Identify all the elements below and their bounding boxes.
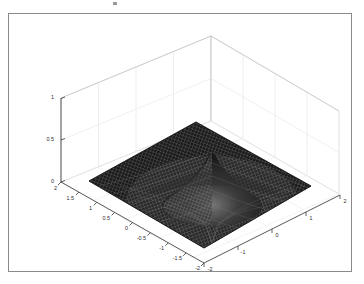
y-tick-label-neg-1-5: -1.5 [173,255,182,261]
x-tick-label-neg-2: -2 [208,266,213,272]
x-tick-label-0: 0 [276,232,279,238]
z-tick-label-0-5: 0.5 [47,136,55,142]
x-tick-label-neg-1: -1 [241,249,246,255]
screenshot-root: 1 0.5 0 2 1.5 1 0.5 0 -0.5 -1 -1.5 [0,0,364,284]
y-tick-label-2: 2 [54,185,57,191]
x-tick-label-1: 1 [310,215,313,221]
x-tick-label-2: 2 [344,198,347,204]
figure-frame: 1 0.5 0 2 1.5 1 0.5 0 -0.5 -1 -1.5 [8,13,352,272]
y-tick-label-1-5: 1.5 [67,195,75,201]
y-tick-label-neg-2: -2 [195,265,200,271]
y-tick-label-0-5: 0.5 [103,215,111,221]
z-tick-label-1: 1 [51,94,54,100]
surface-plot-3d: 1 0.5 0 2 1.5 1 0.5 0 -0.5 -1 -1.5 [9,14,353,273]
z-tick-label-0: 0 [51,178,54,184]
y-tick-label-1: 1 [89,205,92,211]
scan-artifact-top [113,2,117,5]
y-tick-label-neg-1: -1 [159,245,164,251]
y-tick-label-neg-0-5: -0.5 [137,235,146,241]
y-tick-label-0: 0 [125,225,128,231]
